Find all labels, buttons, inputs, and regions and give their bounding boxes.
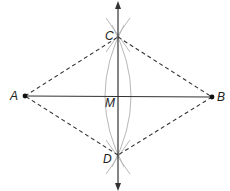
label-c: C [105,29,114,43]
label-a: A [9,89,18,103]
point-b [210,95,215,100]
label-m: M [105,96,115,110]
segment-ac [25,37,118,96]
label-d: D [103,152,112,166]
label-b: B [217,90,225,104]
segment-bd [118,97,212,155]
diagram-canvas: A B C D M [0,0,230,191]
segment-cb [118,37,212,97]
point-a [23,94,28,99]
